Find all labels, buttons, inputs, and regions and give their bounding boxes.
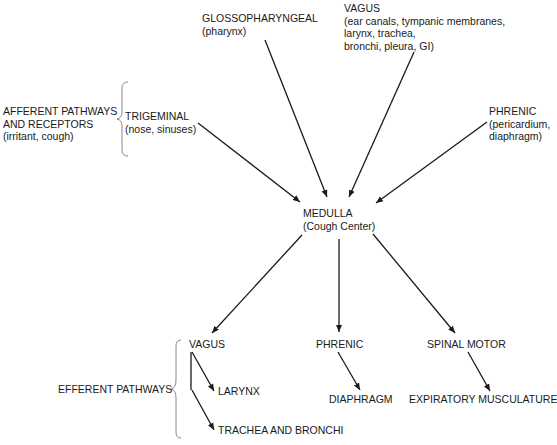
arrow-spinal-motor-to-expiratory [468, 352, 490, 391]
phrenic-efferent-node: PHRENIC [316, 338, 363, 351]
arrow-phrenic-to-diaphragm [338, 352, 360, 390]
arrow-medulla-to-spinal-motor [373, 234, 455, 333]
arrow-medulla-to-vagus [212, 235, 302, 333]
vagus-efferent-node: VAGUS [189, 338, 225, 351]
efferent-brace [171, 340, 181, 438]
arrow-trigeminal-to-medulla [198, 123, 300, 202]
trigeminal-node: TRIGEMINAL (nose, sinuses) [125, 110, 196, 135]
arrow-phrenic-to-medulla [376, 122, 487, 203]
spinal-motor-node: SPINAL MOTOR [427, 338, 506, 351]
arrow-vagus-to-larynx [192, 352, 214, 391]
phrenic-afferent-node: PHRENIC (pericardium, diaphragm) [489, 105, 550, 143]
trachea-bronchi-target: TRACHEA AND BRONCHI [218, 424, 343, 437]
vagus-afferent-node: VAGUS (ear canals, tympanic membranes, l… [344, 2, 505, 52]
afferent-group-label: AFFERENT PATHWAYS AND RECEPTORS (irritan… [3, 105, 117, 143]
arrow-glossopharyngeal-to-medulla [265, 40, 327, 197]
diaphragm-target: DIAPHRAGM [329, 393, 393, 406]
efferent-group-label: EFFERENT PATHWAYS [58, 383, 172, 396]
larynx-target: LARYNX [218, 385, 260, 398]
arrow-vagus-to-medulla [349, 52, 414, 197]
expiratory-musculature-target: EXPIRATORY MUSCULATURE [409, 393, 557, 406]
medulla-node: MEDULLA (Cough Center) [303, 207, 375, 232]
glossopharyngeal-node: GLOSSOPHARYNGEAL (pharynx) [202, 12, 318, 37]
arrow-vagus-to-trachea [192, 390, 214, 430]
